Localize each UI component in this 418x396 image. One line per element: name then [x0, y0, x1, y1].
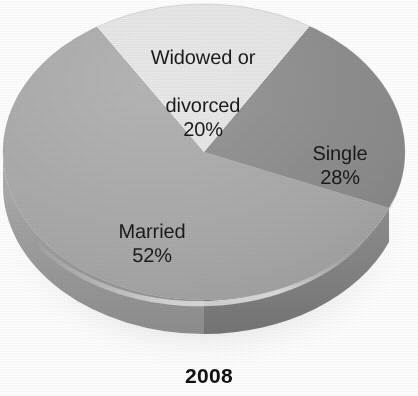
slice-value-married: 52% [86, 244, 218, 268]
slice-label-single-line1: Single [313, 143, 368, 165]
slice-label-married-line1: Married [118, 221, 185, 243]
slice-value-widowed: 20% [128, 118, 278, 142]
slice-label-single: Single 28% [284, 118, 396, 214]
pie-chart-stage: Widowed or divorced 20% Single 28% Marri… [0, 0, 418, 372]
pie-chart-figure: Widowed or divorced 20% Single 28% Marri… [0, 0, 418, 396]
slice-label-widowed-line2: divorced [166, 95, 241, 117]
slice-label-married: Married 52% [86, 196, 218, 292]
slice-label-widowed-line1: Widowed or [151, 47, 256, 69]
chart-caption-year: 2008 [0, 364, 418, 388]
slice-value-single: 28% [284, 166, 396, 190]
slice-label-widowed: Widowed or divorced 20% [128, 22, 278, 166]
